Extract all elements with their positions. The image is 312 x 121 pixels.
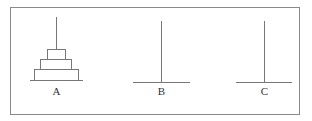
peg-b: B xyxy=(133,21,190,97)
peg-c: C xyxy=(236,21,292,97)
disk-medium xyxy=(41,60,72,70)
tower-of-hanoi-diagram: A B C xyxy=(0,0,312,121)
peg-a-label: A xyxy=(53,85,61,97)
peg-a: A xyxy=(30,17,83,97)
peg-b-label: B xyxy=(158,85,165,97)
peg-c-label: C xyxy=(261,85,268,97)
disk-small xyxy=(48,50,66,60)
disk-large xyxy=(35,70,79,81)
